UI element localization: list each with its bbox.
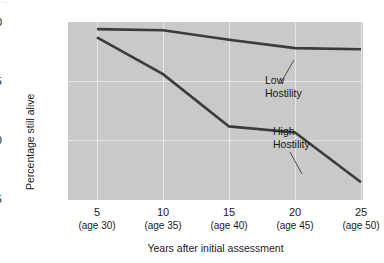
series-lines (68, 22, 363, 200)
x-tick-label-20: 20 (age 45) (264, 206, 326, 232)
x-tick-label-10: 10 (age 35) (132, 206, 194, 232)
line-high-hostility (97, 37, 361, 182)
line-low-hostility (97, 29, 361, 49)
x-tick-label-5: 5 (age 30) (66, 206, 128, 232)
plot-area: Low Hostility High Hostility (68, 22, 363, 200)
x-tick-label-25: 25 (age 50) (330, 206, 384, 232)
x-tick-age-50: (age 50) (330, 219, 384, 232)
x-tick-year-20: 20 (264, 206, 326, 219)
x-tick-age-40: (age 40) (198, 219, 260, 232)
x-axis-label: Years after initial assessment (68, 242, 363, 254)
clipped-caption-strip: ... (0, 0, 376, 7)
annotation-high-line1: High (273, 125, 295, 137)
y-tick-label-85: 85 (0, 193, 2, 205)
annotation-high-line2: Hostility (273, 138, 310, 150)
x-tick-age-45: (age 45) (264, 219, 326, 232)
y-tick-label-90: 90 (0, 134, 2, 146)
y-tick-label-100: 100 (0, 16, 2, 28)
y-axis-label: Percentage still alive (24, 40, 36, 190)
annotation-low-line1: Low (265, 74, 284, 86)
x-tick-year-25: 25 (330, 206, 384, 219)
leader-high-hostility (290, 152, 302, 174)
x-tick-age-30: (age 30) (66, 219, 128, 232)
clipped-caption-text: ... (2, 0, 376, 4)
x-tick-label-15: 15 (age 40) (198, 206, 260, 232)
annotation-low-line2: Hostility (265, 87, 302, 99)
y-tick-label-95: 95 (0, 75, 2, 87)
x-tick-year-5: 5 (66, 206, 128, 219)
annotation-low-hostility: Low Hostility (265, 74, 302, 99)
x-tick-age-35: (age 35) (132, 219, 194, 232)
x-tick-year-10: 10 (132, 206, 194, 219)
annotation-high-hostility: High Hostility (273, 125, 310, 150)
x-tick-year-15: 15 (198, 206, 260, 219)
